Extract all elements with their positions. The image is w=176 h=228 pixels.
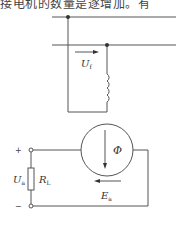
plus-sign: + — [15, 146, 22, 155]
terminal-plus-icon — [29, 148, 33, 152]
junction-dot-bottom — [105, 43, 109, 47]
minus-sign: − — [15, 202, 22, 211]
generator-circuit-diagram: Uf Φ Ea Ua RL + − — [0, 0, 176, 228]
flux-label: Φ — [113, 144, 122, 157]
terminal-minus-icon — [29, 204, 33, 208]
arrow-head-left-icon — [94, 179, 100, 183]
load-resistor-label: RL — [38, 174, 51, 186]
armature-circle — [81, 124, 133, 176]
excitation-voltage-label: Uf — [81, 58, 92, 70]
emf-label: Ea — [100, 190, 112, 202]
junction-dot-top — [66, 15, 70, 19]
terminal-voltage-label: Ua — [13, 174, 25, 186]
arrow-head-right-icon — [93, 50, 99, 54]
arrow-head-down-icon — [103, 163, 107, 169]
load-resistor-icon — [28, 168, 34, 190]
field-coil-icon — [107, 74, 109, 102]
